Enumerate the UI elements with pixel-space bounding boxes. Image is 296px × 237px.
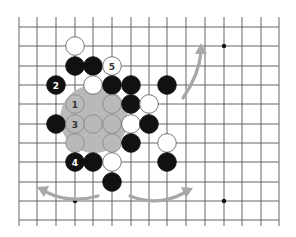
ghost-stone <box>84 115 103 134</box>
ghost-stone <box>103 95 122 114</box>
white-stone <box>66 37 85 56</box>
move-number: 1 <box>72 100 78 110</box>
ghost-stone <box>103 134 122 153</box>
black-stone <box>84 153 103 172</box>
arrow-lower-right-icon <box>130 187 193 201</box>
white-stone <box>122 115 141 134</box>
black-stone <box>47 115 66 134</box>
ghost-stone: 1 <box>66 95 85 114</box>
white-stone <box>158 134 177 153</box>
black-stone <box>140 115 159 134</box>
white-stone <box>84 76 103 95</box>
arrow-upper-right-icon <box>183 43 207 98</box>
move-number: 3 <box>72 120 78 130</box>
white-stone <box>103 153 122 172</box>
ghost-stone: 3 <box>66 115 85 134</box>
black-stone <box>122 134 141 153</box>
black-stone <box>122 76 141 95</box>
arrow-lower-left-icon <box>37 186 98 199</box>
star-point <box>222 44 226 48</box>
black-stone <box>158 153 177 172</box>
black-stone: 4 <box>66 153 85 172</box>
black-stone <box>122 95 141 114</box>
move-number: 5 <box>109 62 115 72</box>
black-stone: 2 <box>47 76 66 95</box>
white-stone <box>140 95 159 114</box>
ghost-stone <box>103 115 122 134</box>
black-stone <box>66 57 85 76</box>
ghost-stone <box>66 134 85 153</box>
black-stone <box>103 173 122 192</box>
black-stone <box>158 76 177 95</box>
go-board-diagram: 52134 <box>0 0 296 237</box>
move-number: 2 <box>53 81 59 91</box>
white-stone: 5 <box>103 57 122 76</box>
move-number: 4 <box>72 158 78 168</box>
star-point <box>222 199 226 203</box>
black-stone <box>84 57 103 76</box>
black-stone <box>103 76 122 95</box>
